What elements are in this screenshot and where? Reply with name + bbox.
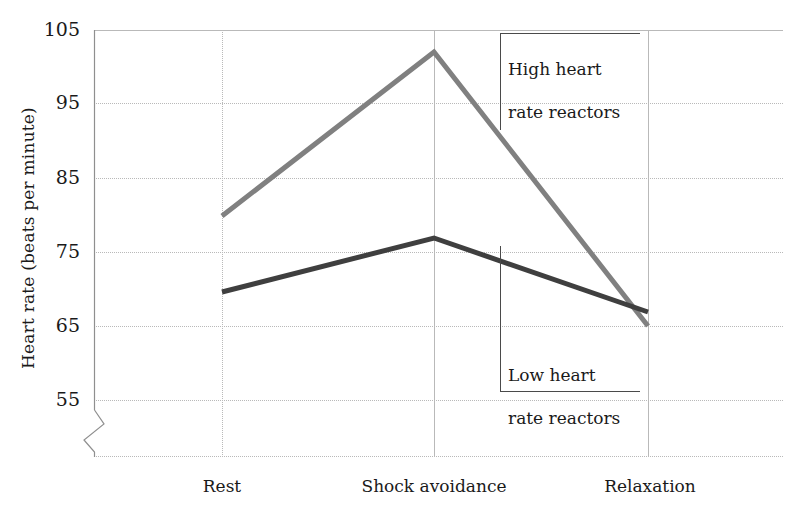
x-tick-label-shock-avoidance: Shock avoidance xyxy=(344,478,524,495)
annotation-high-line2: rate reactors xyxy=(508,102,620,123)
y-axis-with-break xyxy=(84,30,104,457)
annotation-low-reactors: Low heart rate reactors xyxy=(508,344,620,450)
horizontal-gridlines xyxy=(94,31,783,457)
y-axis-break-zigzag xyxy=(84,410,104,457)
annotation-high-line1: High heart xyxy=(508,59,620,80)
x-tick-label-rest: Rest xyxy=(162,478,282,495)
annotation-low-line2: rate reactors xyxy=(508,408,620,429)
x-tick-label-relaxation: Relaxation xyxy=(578,478,722,495)
plot-area xyxy=(0,0,791,512)
chart-container: Heart rate (beats per minute) 105 95 85 … xyxy=(0,0,791,512)
annotation-low-line1: Low heart xyxy=(508,365,620,386)
annotation-high-reactors: High heart rate reactors xyxy=(508,38,620,144)
